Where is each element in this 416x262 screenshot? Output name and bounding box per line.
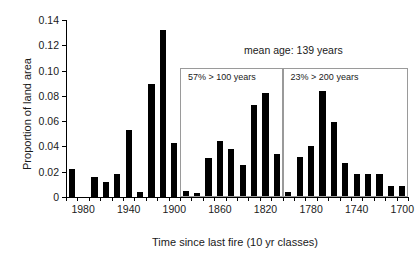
y-axis-title: Proportion of land area [21, 29, 33, 199]
x-tick-mark [397, 197, 398, 201]
y-tick-label: 0.12 [39, 39, 59, 51]
annotation-box-100-years-label: 57% > 100 years [188, 72, 256, 82]
bar [148, 84, 154, 197]
plot-area: 00.020.040.060.080.100.120.14 1980194019… [66, 20, 408, 197]
x-tick-mark [66, 197, 67, 201]
bar [137, 192, 143, 197]
annotation-box-200-years: 23% > 200 years [283, 68, 408, 197]
y-tick-label: 0.02 [39, 166, 59, 178]
bar [171, 143, 177, 197]
x-tick-label: 1940 [117, 203, 140, 215]
x-tick-mark [100, 197, 101, 201]
y-tick-label: 0 [53, 191, 59, 203]
x-tick-mark [340, 197, 341, 201]
x-tick-mark [283, 197, 284, 201]
bar [91, 177, 97, 197]
x-tick-mark [89, 197, 90, 201]
x-tick-mark [408, 197, 409, 201]
y-tick-mark [62, 20, 66, 21]
x-tick-mark [146, 197, 147, 201]
x-tick-mark [134, 197, 135, 201]
y-tick-label: 0.04 [39, 140, 59, 152]
bar [160, 30, 166, 197]
x-tick-mark [77, 197, 78, 201]
x-tick-mark [237, 197, 238, 201]
x-tick-label: 1700 [391, 203, 414, 215]
x-tick-mark [180, 197, 181, 201]
y-tick-label: 0.14 [39, 14, 59, 26]
x-tick-label: 1900 [163, 203, 186, 215]
x-tick-mark [351, 197, 352, 201]
x-tick-mark [157, 197, 158, 201]
y-tick-label: 0.10 [39, 65, 59, 77]
bar [69, 169, 75, 197]
x-tick-mark [374, 197, 375, 201]
x-tick-mark [385, 197, 386, 201]
x-tick-mark [169, 197, 170, 201]
annotation-box-200-years-label: 23% > 200 years [291, 72, 359, 82]
x-tick-label: 1980 [71, 203, 94, 215]
y-tick-mark [62, 71, 66, 72]
x-tick-mark [226, 197, 227, 201]
y-axis-line [66, 20, 67, 197]
y-tick-mark [62, 121, 66, 122]
y-tick-mark [62, 146, 66, 147]
x-tick-mark [203, 197, 204, 201]
bar [126, 130, 132, 197]
x-tick-mark [260, 197, 261, 201]
x-tick-mark [112, 197, 113, 201]
x-tick-label: 1860 [208, 203, 231, 215]
x-tick-mark [248, 197, 249, 201]
x-tick-mark [317, 197, 318, 201]
annotation-box-100-years: 57% > 100 years [180, 68, 283, 197]
x-tick-mark [294, 197, 295, 201]
x-tick-mark [305, 197, 306, 201]
y-tick-mark [62, 172, 66, 173]
y-tick-mark [62, 96, 66, 97]
x-tick-label: 1780 [299, 203, 322, 215]
y-tick-label: 0.06 [39, 115, 59, 127]
x-tick-mark [271, 197, 272, 201]
mean-age-annotation: mean age: 139 years [244, 44, 343, 56]
bar [114, 174, 120, 197]
x-axis-title: Time since last fire (10 yr classes) [60, 236, 410, 248]
x-tick-mark [362, 197, 363, 201]
y-tick-label: 0.08 [39, 90, 59, 102]
y-tick-mark [62, 45, 66, 46]
x-tick-label: 1820 [254, 203, 277, 215]
x-tick-label: 1740 [345, 203, 368, 215]
x-tick-mark [328, 197, 329, 201]
chart-figure: Proportion of land area Time since last … [0, 0, 416, 262]
x-tick-mark [123, 197, 124, 201]
x-tick-mark [214, 197, 215, 201]
x-tick-mark [191, 197, 192, 201]
bar [103, 182, 109, 197]
